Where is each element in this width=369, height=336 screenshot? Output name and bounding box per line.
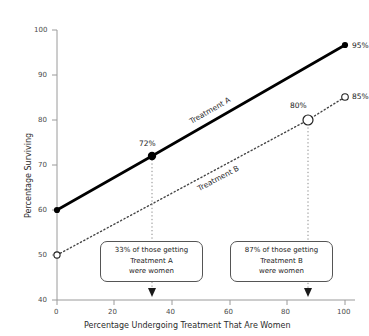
- plot-area: [0, 0, 369, 336]
- data-point-b-87: [303, 115, 313, 125]
- annotation-a-line-3: were women: [105, 266, 198, 277]
- x-axis-ticks: [57, 300, 345, 305]
- dropline-arrow-treatment-a: [148, 288, 156, 297]
- point-label-80: 80%: [290, 101, 307, 110]
- annotation-treatment-b: 87% of those getting Treatment B were wo…: [230, 241, 333, 282]
- x-tick-label-40: 40: [166, 308, 175, 316]
- x-tick-label-60: 60: [224, 308, 233, 316]
- x-tick-label-80: 80: [281, 308, 290, 316]
- x-tick-label-20: 20: [108, 308, 117, 316]
- point-label-72: 72%: [139, 139, 156, 148]
- annotation-treatment-a: 33% of those getting Treatment A were wo…: [100, 241, 203, 282]
- data-point-b-100: [342, 94, 349, 101]
- y-tick-label-40: 40: [38, 296, 47, 304]
- annotation-a-line-1: 33% of those getting: [105, 245, 198, 256]
- x-tick-label-0: 0: [54, 308, 58, 316]
- data-point-b-0: [54, 252, 60, 258]
- x-axis-title: Percentage Undergoing Treatment That Are…: [84, 321, 290, 330]
- point-label-85: 85%: [352, 92, 369, 101]
- y-axis-ticks: [52, 30, 57, 300]
- x-tick-label-100: 100: [337, 308, 350, 316]
- data-point-a-100: [342, 42, 348, 48]
- y-tick-label-60: 60: [38, 206, 47, 214]
- y-tick-label-90: 90: [38, 71, 47, 79]
- point-label-95: 95%: [352, 41, 369, 50]
- y-tick-label-80: 80: [38, 116, 47, 124]
- data-point-a-33: [148, 152, 156, 160]
- annotation-a-line-2: Treatment A: [105, 256, 198, 267]
- annotation-b-line-1: 87% of those getting: [235, 245, 328, 256]
- y-tick-label-100: 100: [34, 26, 47, 34]
- y-tick-label-50: 50: [38, 251, 47, 259]
- annotation-b-line-3: were women: [235, 266, 328, 277]
- data-point-a-0: [54, 207, 60, 213]
- y-axis-title: Percentage Surviving: [24, 133, 33, 218]
- dropline-arrow-treatment-b: [304, 288, 312, 297]
- line-chart: 100 90 80 70 60 50 40 0 20 40 60 80 100 …: [0, 0, 369, 336]
- annotation-b-line-2: Treatment B: [235, 256, 328, 267]
- y-tick-label-70: 70: [38, 161, 47, 169]
